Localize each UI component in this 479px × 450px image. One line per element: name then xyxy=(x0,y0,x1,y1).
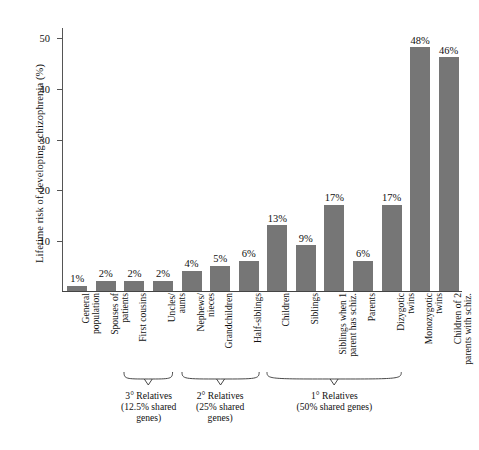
group-caption-line: 1° Relatives xyxy=(249,390,419,401)
y-axis-line xyxy=(62,28,63,292)
y-tick-20: 20 xyxy=(57,190,62,191)
category-label: Spouses ofpatients xyxy=(110,293,130,335)
y-tick-label: 30 xyxy=(40,134,51,145)
group-bracket-tertiary xyxy=(123,372,174,386)
group-caption-line: genes) xyxy=(172,412,268,423)
category-label-line: aunts xyxy=(177,293,187,322)
plot-area: 1020304050 1%2%2%2%4%5%6%13%9%17%6%17%48… xyxy=(62,28,462,292)
category-label-line: parents with schiz. xyxy=(463,293,473,365)
bar-value-label: 46% xyxy=(439,45,458,56)
category-label-line: parent has schiz. xyxy=(348,293,358,357)
category-label-line: nieces xyxy=(205,293,215,331)
y-tick-50: 50 xyxy=(57,38,62,39)
bar-value-label: 17% xyxy=(382,192,401,203)
bar-value-label: 2% xyxy=(156,268,170,279)
category-label-line: First cousins xyxy=(138,293,148,342)
category-label: Nephews/nieces xyxy=(196,293,216,331)
bar: 5% xyxy=(210,266,230,291)
category-label: Children xyxy=(281,293,291,327)
category-label-line: Siblings xyxy=(310,293,320,324)
category-label: Generalpopulation xyxy=(81,293,101,334)
bar: 46% xyxy=(439,57,459,291)
group-caption-primary: 1° Relatives(50% shared genes) xyxy=(249,390,419,412)
y-tick-label: 50 xyxy=(40,33,51,44)
bar: 17% xyxy=(382,205,402,291)
y-tick-label: 10 xyxy=(40,236,51,247)
bar-value-label: 2% xyxy=(99,268,113,279)
bar-value-label: 6% xyxy=(242,248,256,259)
bar-value-label: 2% xyxy=(127,268,141,279)
category-label-line: Nephews/ xyxy=(196,293,206,331)
y-axis-label: Lifetime risk of developing schizophreni… xyxy=(34,39,45,289)
schizophrenia-risk-figure: Lifetime risk of developing schizophreni… xyxy=(0,0,479,450)
category-label: Half-siblings xyxy=(253,293,263,343)
category-label-line: Grandchildren xyxy=(224,293,234,348)
y-tick-40: 40 xyxy=(57,89,62,90)
category-label: Parents xyxy=(367,293,377,321)
bar: 9% xyxy=(296,245,316,291)
bar-value-label: 13% xyxy=(268,213,287,224)
category-label-line: Half-siblings xyxy=(253,293,263,343)
y-tick-label: 20 xyxy=(40,185,51,196)
bar: 13% xyxy=(267,225,287,291)
y-tick-10: 10 xyxy=(57,241,62,242)
x-axis-category-labels: GeneralpopulationSpouses ofpatientsFirst… xyxy=(62,293,462,365)
category-label: Siblings xyxy=(310,293,320,324)
bar: 17% xyxy=(324,205,344,291)
bar: 2% xyxy=(124,281,144,291)
bar: 2% xyxy=(153,281,173,291)
y-tick-30: 30 xyxy=(57,140,62,141)
bar-value-label: 9% xyxy=(299,233,313,244)
bar: 6% xyxy=(353,261,373,291)
bar-value-label: 48% xyxy=(411,35,430,46)
category-label: First cousins xyxy=(138,293,148,342)
bar: 1% xyxy=(67,286,87,291)
group-bracket-secondary xyxy=(181,372,260,386)
y-tick-label: 40 xyxy=(40,83,51,94)
category-label-line: twins xyxy=(434,293,444,344)
bar: 6% xyxy=(239,261,259,291)
category-label: Siblings when 1parent has schiz. xyxy=(338,293,358,357)
category-label-line: patients xyxy=(120,293,130,335)
category-label: Uncles/aunts xyxy=(167,293,187,322)
bar: 4% xyxy=(182,271,202,291)
category-label: Grandchildren xyxy=(224,293,234,348)
bar-value-label: 1% xyxy=(70,273,84,284)
bar: 48% xyxy=(410,47,430,291)
bar: 2% xyxy=(96,281,116,291)
category-label-line: Dizygotic xyxy=(396,293,406,331)
bar-value-label: 17% xyxy=(325,192,344,203)
bar-value-label: 4% xyxy=(185,258,199,269)
category-label: Children of 2parents with schiz. xyxy=(453,293,473,365)
group-caption-line: (50% shared genes) xyxy=(249,401,419,412)
category-label-line: Parents xyxy=(367,293,377,321)
category-label-line: Children xyxy=(281,293,291,327)
bar-value-label: 6% xyxy=(356,248,370,259)
group-bracket-primary xyxy=(266,372,402,386)
category-label: Dizygotictwins xyxy=(396,293,416,331)
category-label: Monozygotictwins xyxy=(424,293,444,344)
bar-value-label: 5% xyxy=(213,253,227,264)
category-label-line: twins xyxy=(405,293,415,331)
category-label-line: population xyxy=(91,293,101,334)
